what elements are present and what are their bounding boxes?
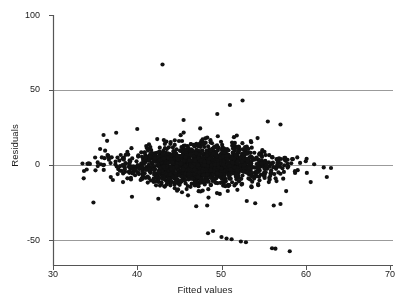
x-axis-tick-label-40: 40 <box>122 269 152 279</box>
y-axis-title: Residuals <box>9 106 20 186</box>
y-axis-tick-label-100: 100 <box>10 10 40 20</box>
x-axis-tick-label-70: 70 <box>375 269 405 279</box>
y-axis-tick-label-minus-50: -50 <box>10 235 40 245</box>
x-axis-title: Fitted values <box>0 284 410 295</box>
residuals-vs-fitted-scatter-plot: 100 50 0 -50 30 40 50 60 70 Fitted value… <box>0 0 410 308</box>
x-axis-tick-label-60: 60 <box>291 269 321 279</box>
scatter-plot-canvas <box>0 0 410 308</box>
x-axis-tick-label-30: 30 <box>38 269 68 279</box>
x-axis-tick-label-50: 50 <box>206 269 236 279</box>
y-axis-tick-label-50: 50 <box>10 84 40 94</box>
